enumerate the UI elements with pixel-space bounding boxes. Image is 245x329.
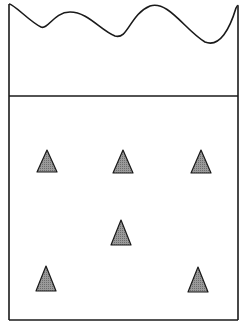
triangle-particle-icon: [111, 220, 131, 245]
particle-group: [36, 150, 211, 292]
wavy-surface-line: [9, 4, 238, 43]
triangle-particle-icon: [191, 150, 211, 173]
triangle-particle-icon: [36, 266, 56, 291]
triangle-particle-icon: [113, 150, 133, 173]
triangle-particle-icon: [188, 267, 208, 292]
container-diagram: [0, 0, 245, 329]
triangle-particle-icon: [37, 150, 57, 172]
